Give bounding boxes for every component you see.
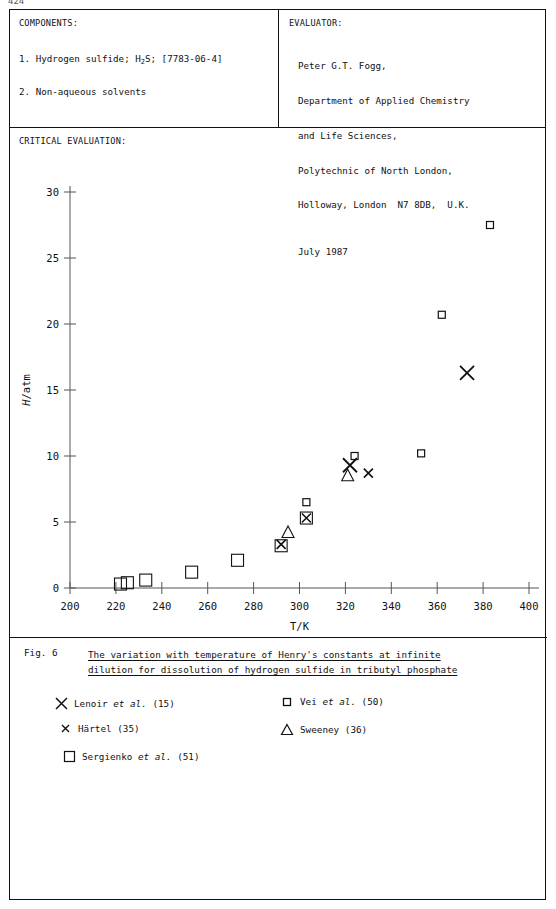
sheet-frame: COMPONENTS: 1. Hydrogen sulfide; H2S; [7… [9, 9, 546, 900]
legend-lenoir-post: (15) [147, 698, 175, 709]
component-1-formula: H2S; [135, 53, 156, 64]
legend-label-sweeney: Sweeney (36) [300, 724, 367, 735]
caption-line-1: The variation with temperature of Henry'… [88, 649, 441, 660]
evaluator-line-2: Department of Applied Chemistry [298, 95, 547, 107]
x-tick-label: 220 [106, 600, 125, 612]
legend-label-hartel: Härtel (35) [78, 723, 140, 734]
x-tick-label: 200 [61, 600, 80, 612]
component-1-index: 1. [19, 53, 30, 64]
figure-label: Fig. 6 [10, 647, 88, 677]
legend-hartel-pre: Härtel [78, 723, 112, 734]
plot-region: 2002202402602803003203403603804000510152… [10, 141, 547, 637]
data-point-big-x [343, 458, 357, 472]
legend-sergienko-post: (51) [172, 751, 200, 762]
legend-entry-vei: Vei et al. (50) [274, 696, 384, 707]
x-tick-label: 300 [290, 600, 309, 612]
x-tick-label: 400 [520, 600, 539, 612]
figure-caption-text: The variation with temperature of Henry'… [88, 647, 457, 677]
legend-lenoir-italic: et al. [113, 698, 147, 709]
y-tick-label: 10 [46, 450, 59, 462]
triangle-marker-icon [274, 723, 300, 736]
henry-constant-scatter-chart: 2002202402602803003203403603804000510152… [10, 141, 547, 637]
data-point-big-x [460, 366, 474, 380]
y-tick-label: 25 [46, 252, 59, 264]
y-tick-label: 5 [53, 516, 59, 528]
components-label: COMPONENTS: [19, 18, 278, 28]
x-tick-label: 340 [382, 600, 401, 612]
legend-sergienko-pre: Sergienko [82, 751, 138, 762]
plot-bottom-divider [10, 637, 547, 638]
figure-legend: Lenoir et al. (15) Härtel (35) Sergienko… [10, 696, 547, 786]
big-square-marker-icon [56, 750, 82, 763]
data-point-triangle [282, 526, 294, 538]
legend-label-lenoir: Lenoir et al. (15) [74, 698, 175, 709]
legend-label-sergienko: Sergienko et al. (51) [82, 751, 200, 762]
legend-label-vei: Vei et al. (50) [300, 696, 384, 707]
legend-sergienko-italic: et al. [138, 751, 172, 762]
data-point-small-x [277, 540, 286, 549]
y-axis-label-text: H/atm [20, 374, 32, 407]
component-item-2: 2. Non-aqueous solvents [19, 77, 278, 107]
page-number-strip: 424 [0, 0, 556, 9]
x-axis-label: T/K [290, 620, 310, 632]
x-tick-label: 320 [336, 600, 355, 612]
data-point-small-square [486, 222, 493, 229]
component-item-1: 1. Hydrogen sulfide; H2S; [7783-06-4] [19, 44, 278, 77]
components-list: 1. Hydrogen sulfide; H2S; [7783-06-4] 2.… [19, 44, 278, 107]
data-point-big-square [232, 554, 244, 566]
y-tick-label: 30 [46, 186, 59, 198]
legend-entry-sweeney: Sweeney (36) [274, 723, 367, 736]
header-row: COMPONENTS: 1. Hydrogen sulfide; H2S; [7… [10, 10, 545, 128]
evaluator-label: EVALUATOR: [289, 18, 547, 28]
component-1-formula-post: S; [145, 53, 156, 64]
data-point-small-square [438, 311, 445, 318]
data-sheet-page: 424 COMPONENTS: 1. Hydrogen sulfide; H2S… [0, 0, 556, 909]
component-2-name: Non-aqueous solvents [36, 86, 147, 97]
y-tick-label: 0 [53, 582, 59, 594]
data-point-small-x [302, 514, 311, 523]
evaluator-cell: EVALUATOR: Peter G.T. Fogg, Department o… [278, 10, 547, 128]
data-point-big-square [275, 540, 287, 552]
y-tick-label: 15 [46, 384, 59, 396]
evaluator-line-3: and Life Sciences, [298, 130, 547, 142]
legend-vei-italic: et al. [322, 696, 356, 707]
small-x-marker-icon [52, 723, 78, 734]
data-point-small-x [364, 469, 373, 478]
legend-entry-lenoir: Lenoir et al. (15) [48, 696, 175, 711]
small-square-marker-icon [274, 697, 300, 707]
legend-entry-hartel: Härtel (35) [52, 723, 140, 734]
x-tick-label: 240 [152, 600, 171, 612]
data-point-big-square [140, 574, 152, 586]
legend-hartel-post: (35) [112, 723, 140, 734]
page-number: 424 [8, 0, 24, 6]
component-1-name: Hydrogen sulfide; [36, 53, 130, 64]
x-tick-label: 260 [198, 600, 217, 612]
big-x-marker-icon [48, 696, 74, 711]
x-tick-label: 380 [474, 600, 493, 612]
x-tick-label: 280 [244, 600, 263, 612]
caption-line-2: dilution for dissolution of hydrogen sul… [88, 664, 457, 675]
legend-entry-sergienko: Sergienko et al. (51) [56, 750, 200, 763]
legend-sweeney-pre: Sweeney [300, 724, 339, 735]
component-1-registry: [7783-06-4] [162, 53, 223, 64]
y-axis-label-unit: /atm [20, 374, 32, 399]
y-axis-label: H/atm [20, 374, 32, 407]
legend-lenoir-pre: Lenoir [74, 698, 113, 709]
evaluator-line-1: Peter G.T. Fogg, [298, 60, 547, 72]
y-tick-label: 20 [46, 318, 59, 330]
data-point-small-square [418, 450, 425, 457]
legend-vei-post: (50) [356, 696, 384, 707]
components-cell: COMPONENTS: 1. Hydrogen sulfide; H2S; [7… [10, 10, 278, 128]
legend-sweeney-post: (36) [339, 724, 367, 735]
figure-caption: Fig. 6 The variation with temperature of… [10, 647, 547, 677]
legend-vei-pre: Vei [300, 696, 322, 707]
x-tick-label: 360 [428, 600, 447, 612]
data-point-small-square [303, 499, 310, 506]
data-point-big-square [186, 566, 198, 578]
component-2-index: 2. [19, 86, 30, 97]
